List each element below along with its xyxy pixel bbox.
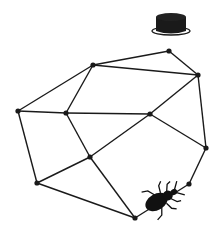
graph-edge [169, 51, 198, 75]
beetle-icon [138, 174, 189, 222]
graph-node-I [34, 180, 39, 185]
graph-edge [150, 114, 206, 148]
graph-edge [93, 65, 198, 75]
graph-node-G [87, 154, 92, 159]
graph-edge [90, 157, 135, 218]
graph-node-A [166, 48, 171, 53]
graph-node-E [63, 110, 68, 115]
graph-edge [93, 51, 169, 65]
graph-svg [0, 0, 218, 237]
graph-edge [37, 183, 135, 218]
graph-node-B [90, 62, 95, 67]
graph-edge [66, 113, 150, 114]
graph-node-C [195, 72, 200, 77]
graph-edge [18, 111, 66, 113]
graph-edge [18, 111, 37, 183]
graph-edge [37, 157, 90, 183]
graph-diagram [0, 0, 218, 237]
graph-node-J [132, 215, 137, 220]
graph-node-F [147, 111, 152, 116]
graph-edge [90, 114, 150, 157]
graph-node-H [203, 145, 208, 150]
graph-edge [189, 148, 206, 184]
graph-nodes [15, 48, 208, 220]
graph-edge [66, 65, 93, 113]
graph-edge [18, 65, 93, 111]
graph-edge [198, 75, 206, 148]
graph-node-D [15, 108, 20, 113]
graph-edge [150, 75, 198, 114]
graph-node-K [186, 181, 191, 186]
graph-edge [66, 113, 90, 157]
puck-icon [152, 13, 190, 35]
